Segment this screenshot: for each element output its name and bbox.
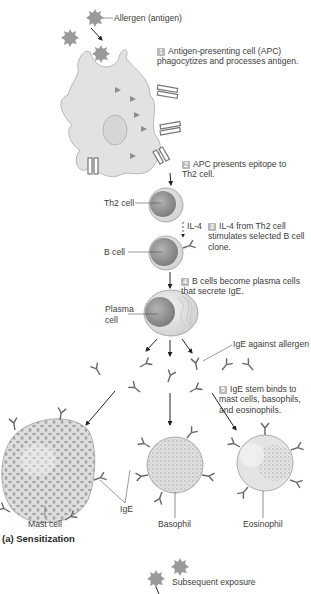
basophil [147,437,203,493]
step-3: 3IL-4 from Th2 cell stimulates selected … [208,221,311,252]
b-cell-label: B cell [104,247,125,257]
allergen-label: Allergen (antigen) [114,13,182,23]
plasma-cell-label-1: Plasma [105,304,134,314]
basophil-label: Basophil [158,519,191,529]
step-1: 1Antigen-presenting cell (APC) phagocyti… [157,46,307,67]
step-1-text: Antigen-presenting cell (APC) phagocytiz… [157,46,298,66]
figure-caption: (a) Sensitization [2,533,75,544]
eosinophil [237,435,293,491]
plasma-cell-label-2: cell [105,315,118,325]
step-5-badge: 5 [219,386,227,394]
step-5-text: IgE stem binds to mast cells, basophils,… [219,384,301,415]
step-3-badge: 3 [208,223,216,231]
allergen-icon [86,9,104,27]
il4-label: IL-4 [187,221,202,231]
sensitization-diagram [0,0,311,594]
step-2-badge: 2 [182,161,190,169]
step-4: 4B cells become plasma cells that secret… [181,276,306,297]
ige-label: IgE [120,504,133,514]
step-4-text: B cells become plasma cells that secrete… [181,276,300,296]
ige-against-allergen-label: IgE against allergen [233,339,309,349]
step-3-text: IL-4 from Th2 cell stimulates selected B… [208,221,304,252]
step-4-badge: 4 [181,278,189,286]
step-2: 2APC presents epitope to Th2 cell. [182,159,292,180]
step-2-text: APC presents epitope to Th2 cell. [182,159,286,179]
step-5: 5IgE stem binds to mast cells, basophils… [219,384,311,415]
mast-cell-label: Mast cell [28,519,62,529]
mast-cell [2,419,95,523]
subsequent-exposure-label: Subsequent exposure [172,577,256,587]
step-1-badge: 1 [157,48,165,56]
apc-cell [61,50,161,177]
eosinophil-label: Eosinophil [243,519,283,529]
th2-cell-label: Th2 cell [104,198,134,208]
